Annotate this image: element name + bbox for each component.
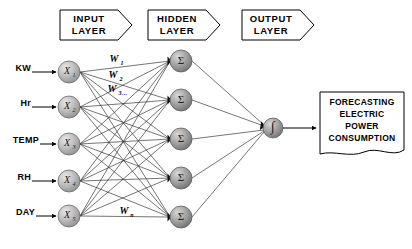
neuron-h1-symbol: Σ	[178, 54, 184, 66]
neuron-h4-symbol: Σ	[178, 171, 184, 183]
neuron-x4-symbol: X	[63, 174, 71, 185]
weight-wn-symbol: W	[120, 205, 130, 216]
banner-output-layer: OUTPUT LAYER	[242, 10, 314, 40]
banner-hidden-line1: HIDDEN	[157, 13, 197, 24]
weight-label-w1: W 1	[110, 53, 124, 66]
output-neuron: ∫	[263, 118, 283, 138]
neuron-x5-subscript: 5	[73, 216, 76, 222]
input-neurons: X 1 X 2 X 3 X 4 X 5	[58, 61, 80, 227]
neuron-h2-symbol: Σ	[178, 93, 184, 105]
neuron-x5-symbol: X	[63, 209, 71, 220]
neuron-h2: Σ	[170, 89, 192, 111]
label-hr: Hr	[20, 98, 31, 108]
weight-wn-subscript: n	[130, 212, 134, 218]
weight-w2-subscript: 2	[119, 76, 123, 82]
weight-w2-symbol: W	[109, 69, 119, 80]
neuron-x5: X 5	[58, 205, 80, 227]
weight-w3-subscript: 3…	[118, 90, 128, 96]
network-canvas: INPUT LAYER HIDDEN LAYER OUTPUT LAYER	[0, 0, 412, 249]
neuron-x1-symbol: X	[63, 65, 71, 76]
neuron-x2: X 2	[58, 96, 80, 118]
neuron-h3-symbol: Σ	[178, 132, 184, 144]
neuron-x3-symbol: X	[63, 137, 71, 148]
connections-input-to-hidden	[80, 61, 170, 217]
weight-w1-symbol: W	[110, 53, 120, 64]
banner-output-line2: LAYER	[254, 25, 288, 36]
neuron-x4: X 4	[58, 170, 80, 192]
neuron-h5: Σ	[170, 206, 192, 228]
weight-w3-symbol: W	[108, 83, 118, 94]
weight-w1-subscript: 1	[121, 60, 124, 66]
neural-network-diagram: INPUT LAYER HIDDEN LAYER OUTPUT LAYER	[0, 0, 412, 249]
output-result-box: FORECASTING ELECTRIC POWER CONSUMPTION	[320, 92, 404, 154]
neuron-x3: X 3	[58, 133, 80, 155]
neuron-h3: Σ	[170, 128, 192, 150]
outbox-line-1: FORECASTING	[329, 97, 394, 107]
label-kw: KW	[15, 63, 31, 73]
input-source-labels: KW Hr TEMP RH DAY	[13, 63, 39, 217]
banner-hidden-line2: LAYER	[160, 25, 194, 36]
neuron-x1: X 1	[58, 61, 80, 83]
banner-hidden-layer: HIDDEN LAYER	[148, 10, 220, 40]
neuron-h1: Σ	[170, 50, 192, 72]
hidden-neurons: Σ Σ Σ Σ Σ	[170, 50, 192, 228]
neuron-h4: Σ	[170, 167, 192, 189]
banner-input-layer: INPUT LAYER	[60, 10, 132, 40]
banner-output-line1: OUTPUT	[250, 13, 293, 24]
banner-input-line1: INPUT	[73, 13, 105, 24]
label-rh: RH	[17, 172, 31, 182]
neuron-x2-subscript: 2	[73, 107, 76, 113]
label-day: DAY	[16, 207, 35, 217]
neuron-x1-subscript: 1	[73, 72, 76, 78]
connections-hidden-to-output	[192, 61, 266, 217]
outbox-line-2: ELECTRIC	[340, 109, 385, 119]
neuron-x4-subscript: 4	[73, 181, 76, 187]
banner-input-line2: LAYER	[72, 25, 106, 36]
neuron-h5-symbol: Σ	[178, 210, 184, 222]
neuron-x2-symbol: X	[63, 100, 71, 111]
layer-banners: INPUT LAYER HIDDEN LAYER OUTPUT LAYER	[60, 10, 314, 40]
neuron-x3-subscript: 3	[72, 144, 76, 150]
outbox-line-4: CONSUMPTION	[328, 133, 395, 143]
weight-label-w2: W 2	[109, 69, 123, 82]
outbox-line-3: POWER	[345, 121, 379, 131]
label-temp: TEMP	[13, 135, 39, 145]
